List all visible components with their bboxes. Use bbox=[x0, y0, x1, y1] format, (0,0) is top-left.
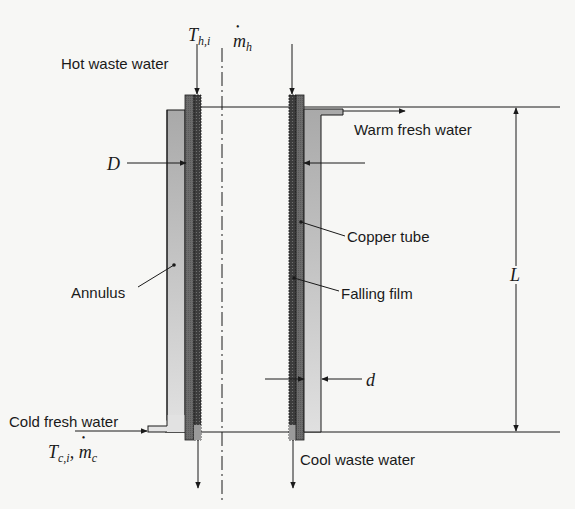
left-falling-film bbox=[194, 95, 201, 440]
T-hot-inlet-symbol: Th,i bbox=[188, 26, 210, 47]
annulus-label: Annulus bbox=[71, 285, 125, 300]
hot-waste-water-label: Hot waste water bbox=[61, 56, 169, 71]
D-symbol: D bbox=[107, 155, 120, 173]
falling-film-label: Falling film bbox=[341, 286, 413, 301]
cool-waste-water-label: Cool waste water bbox=[300, 452, 415, 467]
m-hot-symbol: mh bbox=[233, 32, 252, 53]
warm-fresh-water-label: Warm fresh water bbox=[354, 122, 472, 137]
right-copper-tube bbox=[296, 95, 304, 440]
heat-exchanger-diagram bbox=[0, 0, 575, 509]
L-symbol: L bbox=[510, 266, 520, 284]
copper-tube-label: Copper tube bbox=[347, 229, 430, 244]
T-m-cold-inlet-symbols: Tc,i, mc bbox=[48, 443, 97, 464]
right-annulus bbox=[304, 109, 343, 432]
left-annulus bbox=[148, 110, 185, 432]
d-symbol: d bbox=[366, 371, 375, 389]
left-copper-tube bbox=[185, 95, 194, 440]
cold-fresh-water-label: Cold fresh water bbox=[9, 414, 118, 429]
right-falling-film bbox=[289, 95, 296, 440]
